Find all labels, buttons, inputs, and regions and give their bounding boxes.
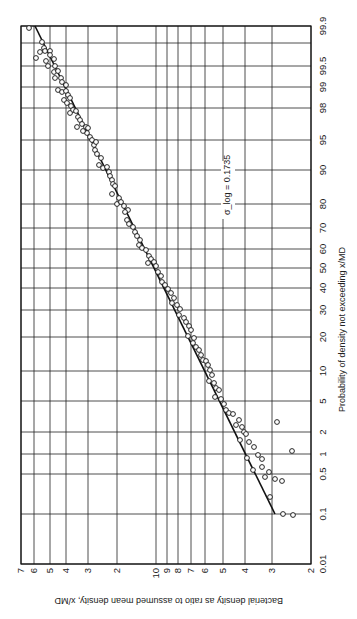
probability-tick-label: 60 (317, 244, 328, 255)
data-point (219, 397, 224, 402)
probability-tick: 30 (317, 305, 328, 316)
data-point (213, 395, 218, 400)
density-tick-label: 10 (150, 568, 161, 579)
density-tick: 3 (266, 568, 277, 573)
data-point (197, 348, 202, 353)
probability-tick: 0.01 (317, 555, 328, 574)
data-point (44, 59, 49, 64)
data-point (189, 328, 194, 333)
data-point (169, 291, 174, 296)
probability-tick-label: 98 (317, 103, 328, 114)
density-tick-label: 6 (199, 568, 210, 573)
data-point (159, 274, 164, 279)
data-point (260, 457, 265, 462)
data-point (273, 477, 278, 482)
probability-tick: 80 (317, 199, 328, 210)
probability-tick-label: 0.5 (317, 467, 328, 480)
probability-tick-label: 5 (317, 398, 328, 403)
data-point (275, 420, 280, 425)
probability-tick-label: 30 (317, 305, 328, 316)
data-point (113, 184, 118, 189)
data-point (291, 513, 296, 518)
density-tick-label: 4 (60, 568, 71, 573)
grid-lines (21, 26, 311, 564)
probability-tick: 0.1 (317, 507, 328, 520)
sigma-label: σ_log = 0.1735 (222, 155, 232, 215)
probability-tick-label: 95 (317, 135, 328, 146)
density-tick: 2 (111, 568, 122, 573)
data-point (192, 336, 197, 341)
density-axis-title-text: Bacterial density as ratio to assumed me… (54, 596, 283, 606)
probability-tick: 20 (317, 332, 328, 343)
data-point (53, 76, 58, 81)
density-tick-label: 5 (44, 568, 55, 573)
probability-tick-label: 99 (317, 82, 328, 93)
data-point (122, 204, 127, 209)
probability-tick-label: 10 (317, 366, 328, 377)
density-tick: 9 (161, 568, 172, 573)
probability-tick-label: 70 (317, 223, 328, 234)
data-point (206, 363, 211, 368)
data-point (131, 225, 136, 230)
probability-tick-label: 0.1 (317, 507, 328, 520)
density-axis-title: Bacterial density as ratio to assumed me… (54, 596, 283, 606)
data-point (43, 49, 48, 54)
density-tick: 6 (199, 568, 210, 573)
data-point (110, 192, 115, 197)
data-point (245, 456, 250, 461)
probability-tick: 50 (317, 263, 328, 274)
density-tick: 4 (239, 568, 250, 573)
data-point (27, 26, 32, 31)
probability-axis-title: Probability of density not exceeding x/M… (337, 246, 347, 412)
probability-tick: 99.9 (317, 17, 328, 36)
data-point (212, 381, 217, 386)
density-tick: 10 (150, 568, 161, 579)
density-tick-label: 9 (161, 568, 172, 573)
probability-tick-label: 80 (317, 199, 328, 210)
density-tick-label: 3 (82, 568, 93, 573)
probability-tick-label: 1 (317, 451, 328, 456)
data-point (144, 248, 149, 253)
data-point (68, 111, 73, 116)
data-point (237, 418, 242, 423)
probability-tick: 70 (317, 223, 328, 234)
data-point (170, 301, 175, 306)
data-point (123, 210, 128, 215)
data-point (46, 64, 51, 69)
probability-tick: 98 (317, 103, 328, 114)
density-tick-label: 7 (185, 568, 196, 573)
density-tick-label: 3 (266, 568, 277, 573)
density-tick: 7 (185, 568, 196, 573)
data-point (146, 261, 151, 266)
data-point (238, 438, 243, 443)
data-point (256, 453, 261, 458)
data-point (210, 373, 215, 378)
data-point (138, 238, 143, 243)
density-tick: 7 (15, 568, 26, 573)
density-tick-label: 4 (239, 568, 250, 573)
data-point (178, 307, 183, 312)
probability-tick: 0.5 (317, 467, 328, 480)
data-point (208, 368, 213, 373)
data-point (290, 449, 295, 454)
density-tick: 5 (44, 568, 55, 573)
probability-tick: 90 (317, 165, 328, 176)
plot-frame (21, 26, 311, 564)
data-points (27, 26, 296, 518)
probability-axis-title-text: Probability of density not exceeding x/M… (337, 246, 347, 412)
sigma-annotation: σ_log = 0.1735 (221, 155, 235, 219)
log-probability-chart: 7654321098765432 99.999.5999895908070605… (0, 0, 357, 619)
data-point (244, 432, 249, 437)
probability-tick: 1 (317, 451, 328, 456)
data-point (105, 165, 110, 170)
data-point (52, 57, 57, 62)
data-point (267, 470, 272, 475)
data-point (48, 53, 53, 58)
density-tick-label: 6 (28, 568, 39, 573)
probability-tick: 99.5 (317, 57, 328, 76)
probability-tick: 5 (317, 398, 328, 403)
data-point (95, 152, 100, 157)
data-point (34, 56, 39, 61)
density-tick: 5 (217, 568, 228, 573)
data-point (234, 423, 239, 428)
